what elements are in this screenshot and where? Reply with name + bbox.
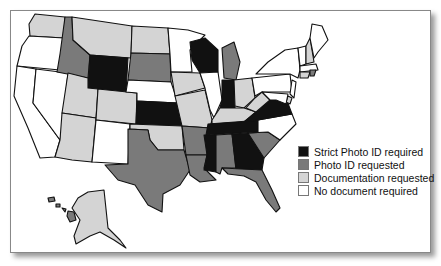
legend-label: Strict Photo ID required — [314, 146, 423, 158]
state-fl[interactable] — [222, 168, 280, 212]
legend-swatch-strict — [298, 146, 309, 157]
us-map — [0, 0, 441, 266]
state-az[interactable] — [55, 113, 96, 162]
legend-label: Photo ID requested — [314, 159, 404, 171]
legend: Strict Photo ID required Photo ID reques… — [298, 145, 434, 197]
state-wa[interactable] — [29, 14, 65, 38]
legend-item-strict: Strict Photo ID required — [298, 145, 434, 158]
state-wi[interactable] — [190, 38, 218, 73]
state-ny[interactable] — [256, 48, 300, 78]
legend-swatch-none — [298, 185, 309, 196]
state-or[interactable] — [17, 36, 64, 70]
legend-item-doc: Documentation requested — [298, 171, 434, 184]
state-nd[interactable] — [131, 26, 170, 54]
state-ri[interactable] — [310, 70, 316, 76]
state-mi[interactable] — [222, 42, 240, 80]
legend-label: Documentation requested — [314, 172, 434, 184]
legend-swatch-doc — [298, 172, 309, 183]
state-vt[interactable] — [298, 46, 306, 66]
state-sd[interactable] — [128, 53, 171, 82]
state-co[interactable] — [96, 89, 137, 124]
legend-swatch-photo — [298, 159, 309, 170]
state-nm[interactable] — [92, 120, 130, 164]
legend-item-none: No document required — [298, 184, 434, 197]
state-ct[interactable] — [300, 72, 310, 78]
state-ak[interactable] — [72, 190, 126, 248]
state-wy[interactable] — [88, 55, 128, 92]
state-ks[interactable] — [136, 101, 182, 126]
legend-label: No document required — [314, 185, 418, 197]
state-in[interactable] — [220, 80, 235, 108]
legend-item-photo: Photo ID requested — [298, 158, 434, 171]
state-hi[interactable] — [48, 197, 76, 222]
state-me[interactable] — [310, 24, 328, 58]
